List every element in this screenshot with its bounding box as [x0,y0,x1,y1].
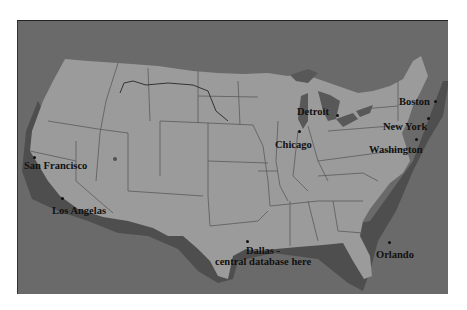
boston-label: Boston [399,96,430,107]
orlando-label: Orlando [376,249,414,260]
us-map: San Francisco Los Angelas Detroit Chicag… [17,20,448,294]
dallas-label-line1: Dallas - [215,245,311,256]
orlando-dot [388,241,391,244]
detroit-label: Detroit [297,106,329,117]
washington-label: Washington [369,144,423,155]
boston-dot [434,100,437,103]
detroit-dot [336,114,339,117]
great-salt-lake [113,157,117,161]
chicago-label: Chicago [275,139,312,150]
washington-dot [415,138,418,141]
san-francisco-dot [33,156,36,159]
dallas-label: Dallas - central database here [215,245,311,267]
chicago-dot [298,130,301,133]
dallas-label-line2: central database here [215,256,311,267]
dallas-dot [246,240,249,243]
los-angeles-label: Los Angelas [52,205,106,216]
new-york-label: New York [383,121,427,132]
san-francisco-label: San Francisco [24,160,87,171]
new-york-dot [427,117,430,120]
los-angeles-dot [61,197,64,200]
